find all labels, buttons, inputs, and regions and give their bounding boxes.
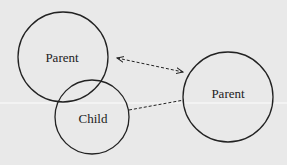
parent-left-label: Parent xyxy=(45,50,79,65)
node-parent-right: Parent xyxy=(183,52,273,142)
parent-right-label: Parent xyxy=(211,86,245,101)
child-label: Child xyxy=(79,111,108,126)
edge-child-parent-dashed xyxy=(129,100,184,110)
node-parent-left: Parent xyxy=(18,12,108,102)
diagram-canvas: Parent Child Parent xyxy=(0,0,287,165)
edge-parent-parent-double-arrow xyxy=(117,58,183,72)
